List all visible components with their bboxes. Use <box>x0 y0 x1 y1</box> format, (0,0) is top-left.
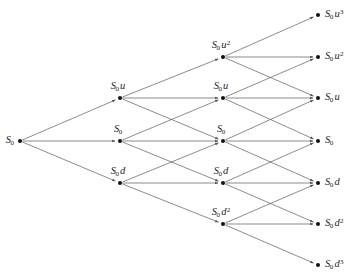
tree-edge-up <box>122 100 218 140</box>
trinomial-tree-diagram: S0S0uS0S0dS0u2S0uS0S0dS0d2S0u3S0u2S0uS0S… <box>0 0 354 279</box>
label-subscript: 0 <box>115 170 119 178</box>
tree-node-dot[interactable] <box>316 13 320 17</box>
label-subscript: 0 <box>218 85 222 93</box>
label-exponent: 2 <box>227 206 231 214</box>
tree-edge-up <box>225 143 313 182</box>
tree-edge-down <box>225 58 313 96</box>
tree-edge-up <box>225 59 313 97</box>
label-factor: d <box>221 206 226 217</box>
tree-edge-down <box>225 225 313 263</box>
label-subscript: 0 <box>217 44 221 52</box>
tree-node-dot[interactable] <box>118 96 122 100</box>
tree-node-label: S0u2 <box>325 51 343 63</box>
label-subscript: 0 <box>222 128 226 136</box>
label-subscript: 0 <box>115 85 119 93</box>
label-exponent: 3 <box>340 8 344 16</box>
tree-node-dot[interactable] <box>118 181 122 185</box>
tree-node-dot[interactable] <box>316 139 320 143</box>
tree-edge-up <box>225 185 313 223</box>
tree-node-label: S0d2 <box>212 207 230 219</box>
tree-node-label: S0 <box>6 135 14 147</box>
tree-node-dot[interactable] <box>316 222 320 226</box>
tree-node-label: S0d <box>325 177 340 189</box>
tree-edge-down <box>225 184 313 222</box>
tree-node-dot[interactable] <box>221 139 225 143</box>
label-subscript: 0 <box>11 139 15 147</box>
tree-node-label: S0 <box>325 135 333 147</box>
tree-edge-down <box>225 99 313 139</box>
tree-node-label: S0 <box>114 124 122 136</box>
tree-node-label: S0u <box>325 92 340 104</box>
tree-edge-down <box>122 99 218 139</box>
tree-edge-down <box>122 184 218 222</box>
tree-node-dot[interactable] <box>221 96 225 100</box>
tree-node-dot[interactable] <box>221 55 225 59</box>
tree-node-label: S0u <box>214 81 229 93</box>
tree-node-label: S0d3 <box>325 259 343 271</box>
label-subscript: 0 <box>217 211 221 219</box>
label-factor: d <box>223 165 228 176</box>
label-subscript: 0 <box>119 128 123 136</box>
label-exponent: 2 <box>340 217 344 225</box>
label-subscript: 0 <box>218 170 222 178</box>
tree-node-dot[interactable] <box>316 55 320 59</box>
tree-edge-up <box>225 17 313 56</box>
tree-edge-up <box>122 143 218 182</box>
tree-node-label: S0u3 <box>325 9 343 21</box>
tree-node-dot[interactable] <box>316 96 320 100</box>
tree-node-label: S0d2 <box>325 218 343 230</box>
label-subscript: 0 <box>330 13 334 21</box>
label-subscript: 0 <box>330 139 334 147</box>
tree-node-dot[interactable] <box>316 181 320 185</box>
tree-node-label: S0u <box>111 81 126 93</box>
tree-edge-down <box>122 142 218 181</box>
label-subscript: 0 <box>330 222 334 230</box>
tree-node-dot[interactable] <box>221 181 225 185</box>
tree-edge-up <box>122 59 218 97</box>
label-factor: u <box>120 80 125 91</box>
tree-node-label: S0d <box>214 166 229 178</box>
tree-edge-up <box>22 100 115 140</box>
tree-node-dot[interactable] <box>316 263 320 267</box>
tree-node-dot[interactable] <box>221 222 225 226</box>
label-factor: d <box>334 176 339 187</box>
tree-edge-down <box>22 142 115 181</box>
label-factor: u <box>334 91 339 102</box>
label-exponent: 3 <box>340 258 344 266</box>
label-subscript: 0 <box>330 181 334 189</box>
edge-layer <box>0 0 354 279</box>
label-subscript: 0 <box>330 263 334 271</box>
label-factor: u <box>223 80 228 91</box>
tree-node-label: S0d <box>111 166 126 178</box>
label-subscript: 0 <box>330 96 334 104</box>
tree-edge-down <box>225 142 313 181</box>
label-exponent: 2 <box>340 50 344 58</box>
label-factor: d <box>120 165 125 176</box>
tree-node-label: S0u2 <box>212 40 230 52</box>
label-factor: u <box>334 50 339 61</box>
tree-node-label: S0 <box>217 124 225 136</box>
label-subscript: 0 <box>330 55 334 63</box>
tree-node-dot[interactable] <box>118 139 122 143</box>
label-factor: d <box>334 217 339 228</box>
tree-edge-up <box>225 100 313 140</box>
label-exponent: 2 <box>227 39 231 47</box>
label-factor: d <box>334 258 339 269</box>
label-factor: u <box>221 39 226 50</box>
label-factor: u <box>334 8 339 19</box>
tree-node-dot[interactable] <box>18 139 22 143</box>
